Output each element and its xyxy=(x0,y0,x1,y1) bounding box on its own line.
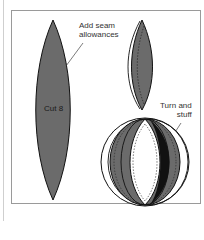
seam-leader-line xyxy=(66,43,83,66)
seam-label-line2: allowances xyxy=(79,30,119,39)
seam-label-line1: Add seam xyxy=(79,21,119,30)
seam-allowance-label: Add seam allowances xyxy=(79,21,119,39)
turn-label-line2: stuff xyxy=(160,110,192,119)
turn-label-line1: Turn and xyxy=(160,101,192,110)
assembled-ball-shape xyxy=(101,118,189,206)
cut-count-label: Cut 8 xyxy=(44,104,63,113)
seamed-gore-shape xyxy=(128,20,153,110)
turn-stuff-label: Turn and stuff xyxy=(160,101,192,119)
